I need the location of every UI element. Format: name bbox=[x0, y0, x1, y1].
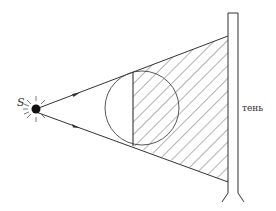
shadow-region bbox=[133, 36, 228, 182]
arrow-icon bbox=[72, 93, 80, 98]
arrow-icon bbox=[72, 124, 80, 128]
source-label: S bbox=[17, 96, 25, 109]
sun-icon bbox=[32, 105, 41, 114]
shadow-diagram: S тень bbox=[0, 0, 276, 211]
shadow-label: тень bbox=[242, 103, 263, 113]
light-source: S bbox=[17, 96, 45, 122]
